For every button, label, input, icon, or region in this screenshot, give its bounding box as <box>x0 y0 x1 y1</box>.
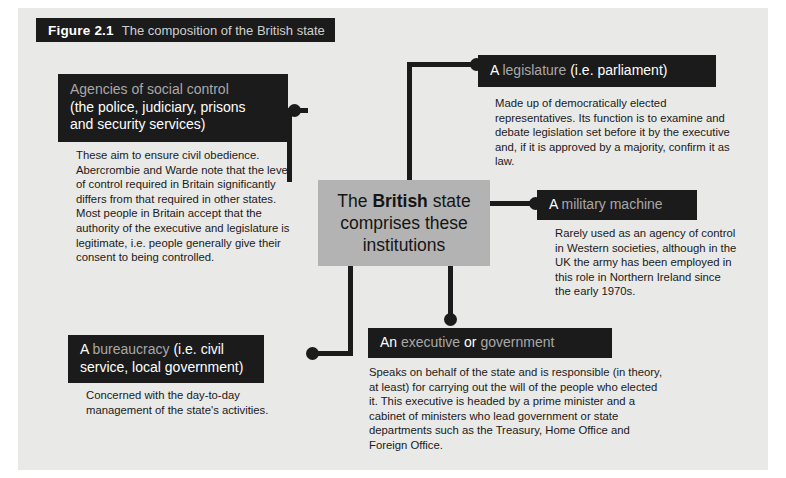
node-header-line: service, local government) <box>80 359 254 377</box>
figure-panel: Figure 2.1 The composition of the Britis… <box>18 8 768 470</box>
figure-caption-text: The composition of the British state <box>122 23 325 38</box>
node-body-agencies: These aim to ensure civil obedience. Abe… <box>76 148 291 265</box>
node-header-line: Agencies of social control <box>70 81 278 99</box>
node-header-line: A bureaucracy (i.e. civil <box>80 341 254 359</box>
connector-dot-bureaucracy <box>306 347 319 360</box>
connector-dot-executive <box>444 313 457 326</box>
header-text: A <box>80 341 92 357</box>
node-body-legislature: Made up of democratically elected repres… <box>495 96 737 169</box>
connector-military-horizontal <box>490 201 534 206</box>
header-text: A <box>549 196 561 212</box>
center-line-3: institutions <box>363 234 446 256</box>
center-line-2: comprises these <box>340 212 467 234</box>
header-keyword: military machine <box>561 196 662 212</box>
node-body-military: Rarely used as an agency of control in W… <box>555 226 739 299</box>
header-text: service, local government) <box>80 359 243 375</box>
connector-legislature-horizontal <box>407 62 475 67</box>
connector-agencies-stub <box>292 108 306 113</box>
node-header-line: (the police, judiciary, prisons <box>70 99 278 117</box>
connector-bureaucracy-horizontal <box>314 351 353 356</box>
header-text: (i.e. parliament) <box>566 62 667 78</box>
node-header-agencies: Agencies of social control(the police, j… <box>58 74 288 142</box>
node-body-executive: Speaks on behalf of the state and is res… <box>369 365 669 453</box>
header-keyword: Agencies of social control <box>70 81 229 97</box>
header-text: A <box>490 62 502 78</box>
figure-caption-bar: Figure 2.1 The composition of the Britis… <box>36 18 335 42</box>
figure-number: Figure 2.1 <box>48 23 114 38</box>
connector-bureaucracy-vertical <box>348 266 353 356</box>
node-header-line: A legislature (i.e. parliament) <box>490 62 706 80</box>
connector-executive-vertical <box>448 266 453 318</box>
header-text: (i.e. civil <box>170 341 224 357</box>
node-header-line: A military machine <box>549 196 687 214</box>
header-keyword: bureaucracy <box>92 341 169 357</box>
node-header-line: An executive or government <box>380 334 602 352</box>
node-header-line: and security services) <box>70 116 278 134</box>
node-header-executive: An executive or government <box>368 328 612 358</box>
header-keyword: legislature <box>502 62 566 78</box>
center-node-british-state: The British state comprises these instit… <box>318 180 490 266</box>
connector-legislature-vertical <box>407 62 412 180</box>
header-text: An <box>380 334 401 350</box>
header-keyword: executive <box>401 334 460 350</box>
header-keyword: government <box>480 334 554 350</box>
node-header-legislature: A legislature (i.e. parliament) <box>478 55 716 87</box>
node-body-bureaucracy: Concerned with the day-to-day management… <box>86 388 301 417</box>
node-header-bureaucracy: A bureaucracy (i.e. civilservice, local … <box>68 335 264 383</box>
header-text: and security services) <box>70 116 205 132</box>
center-line-1: The British state <box>337 190 470 212</box>
header-text: (the police, judiciary, prisons <box>70 99 246 115</box>
header-text: or <box>460 334 480 350</box>
node-header-military: A military machine <box>537 190 697 220</box>
